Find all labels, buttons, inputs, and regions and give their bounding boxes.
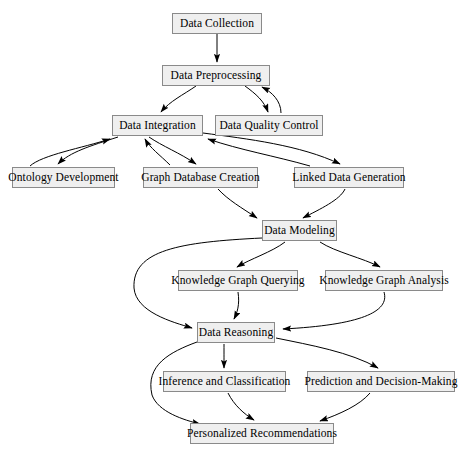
node-knowledge-graph-querying[interactable]: Knowledge Graph Querying bbox=[178, 270, 298, 291]
edge-prediction-and-decision-making-to-personalized-recommendations bbox=[320, 393, 370, 421]
node-label: Prediction and Decision-Making bbox=[302, 376, 459, 388]
edge-data-integration-to-graph-database-creation bbox=[149, 137, 196, 164]
node-label: Graph Database Creation bbox=[139, 172, 262, 184]
edge-knowledge-graph-querying-to-data-reasoning bbox=[234, 292, 239, 319]
flowchart-diagram: Data Collection Data Preprocessing Data … bbox=[0, 0, 460, 457]
edge-data-preprocessing-to-data-integration bbox=[161, 86, 196, 112]
node-ontology-development[interactable]: Ontology Development bbox=[12, 167, 115, 188]
node-linked-data-generation[interactable]: Linked Data Generation bbox=[294, 167, 404, 188]
node-prediction-and-decision-making[interactable]: Prediction and Decision-Making bbox=[307, 371, 455, 392]
node-label: Data Quality Control bbox=[217, 120, 320, 132]
node-label: Knowledge Graph Analysis bbox=[317, 275, 451, 287]
edge-data-modeling-to-knowledge-graph-analysis bbox=[320, 242, 380, 267]
edge-linked-data-generation-to-data-integration bbox=[208, 139, 310, 166]
node-label: Knowledge Graph Querying bbox=[169, 275, 306, 287]
node-knowledge-graph-analysis[interactable]: Knowledge Graph Analysis bbox=[325, 270, 443, 291]
node-data-quality-control[interactable]: Data Quality Control bbox=[215, 115, 323, 136]
edge-graph-database-creation-to-data-modeling bbox=[218, 189, 257, 218]
node-inference-and-classification[interactable]: Inference and Classification bbox=[163, 371, 286, 392]
node-data-reasoning[interactable]: Data Reasoning bbox=[197, 322, 275, 343]
node-label: Data Preprocessing bbox=[169, 70, 264, 82]
node-data-preprocessing[interactable]: Data Preprocessing bbox=[162, 65, 270, 86]
node-label: Data Modeling bbox=[262, 225, 337, 237]
edge-data-preprocessing-to-data-quality-control bbox=[245, 86, 268, 112]
edge-linked-data-generation-to-data-modeling bbox=[303, 189, 345, 218]
node-data-modeling[interactable]: Data Modeling bbox=[262, 220, 337, 241]
edge-inference-and-classification-to-personalized-recommendations bbox=[228, 393, 254, 420]
node-label: Data Reasoning bbox=[197, 327, 276, 339]
node-label: Ontology Development bbox=[6, 172, 120, 184]
edge-data-quality-control-to-data-preprocessing bbox=[262, 87, 281, 113]
node-label: Inference and Classification bbox=[157, 376, 293, 388]
node-graph-database-creation[interactable]: Graph Database Creation bbox=[143, 167, 258, 188]
node-label: Linked Data Generation bbox=[290, 172, 407, 184]
edge-graph-database-creation-to-data-integration bbox=[145, 139, 170, 165]
node-label: Personalized Recommendations bbox=[185, 428, 339, 440]
node-label: Data Integration bbox=[117, 120, 198, 132]
edge-ontology-development-to-data-integration bbox=[30, 139, 110, 166]
edge-knowledge-graph-analysis-to-data-reasoning bbox=[283, 292, 385, 329]
node-data-collection[interactable]: Data Collection bbox=[172, 13, 262, 34]
edge-data-reasoning-to-prediction-and-decision-making bbox=[276, 338, 378, 368]
edge-data-integration-to-linked-data-generation bbox=[203, 133, 340, 164]
node-data-integration[interactable]: Data Integration bbox=[112, 115, 203, 136]
edge-data-modeling-to-knowledge-graph-querying bbox=[237, 242, 285, 267]
node-label: Data Collection bbox=[178, 18, 256, 30]
node-personalized-recommendations[interactable]: Personalized Recommendations bbox=[190, 423, 334, 444]
